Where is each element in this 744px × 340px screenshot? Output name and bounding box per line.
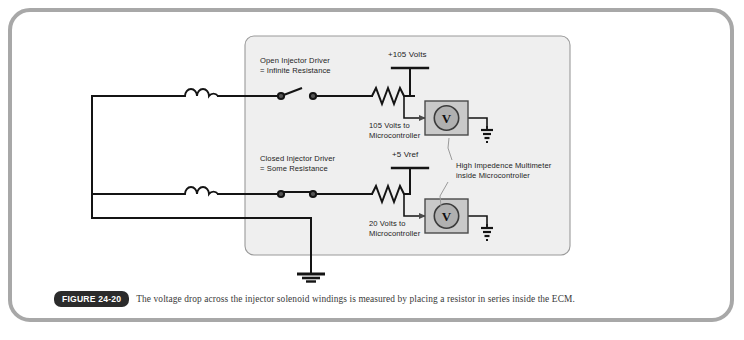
label-signal-top: 105 Volts to Microcontroller (369, 121, 459, 141)
injector-coil-bottom (183, 187, 218, 194)
injector-coil-top (183, 89, 218, 96)
label-multimeter-note: High Impedence Multimeter inside Microco… (456, 161, 576, 181)
ground-chassis (297, 274, 325, 282)
figure-number-badge: FIGURE 24-20 (54, 291, 129, 307)
label-supply-top: +105 Volts (388, 50, 427, 60)
label-signal-bottom: 20 Volts to Microcontroller (369, 219, 459, 239)
label-open-driver: Open Injector Driver = Infinite Resistan… (260, 56, 380, 76)
figure-caption: FIGURE 24-20 The voltage drop across the… (54, 288, 694, 310)
label-supply-bottom: +5 Vref (392, 150, 418, 160)
figure-caption-text: The voltage drop across the injector sol… (136, 294, 575, 304)
label-closed-driver: Closed Injector Driver = Some Resistance (260, 154, 385, 174)
